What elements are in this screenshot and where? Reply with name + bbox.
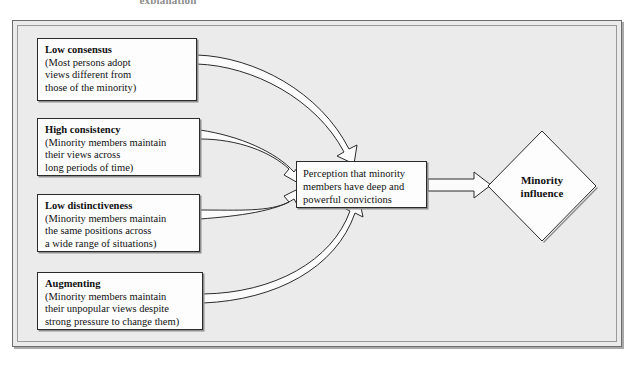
box-low-distinctiveness-line-3: a wide range of situations) [45, 238, 193, 251]
box-perception: Perception that minority members have de… [296, 161, 427, 208]
box-low-consensus-line-3: those of the minority) [45, 82, 190, 95]
box-low-consensus-title: Low consensus [45, 44, 190, 57]
box-low-distinctiveness-title: Low distinctiveness [45, 200, 193, 213]
box-high-consistency-title: High consistency [45, 124, 193, 137]
minority-influence-label-line-2: influence [500, 187, 584, 200]
box-augmenting-line-1: (Minority members maintain [45, 291, 196, 304]
box-low-consensus-line-2: views different from [45, 69, 190, 82]
box-augmenting-line-3: strong pressure to change them) [45, 316, 196, 329]
box-perception-line-1: Perception that minority [303, 167, 421, 180]
cut-off-caption: explanation [78, 0, 258, 4]
box-low-consensus-line-1: (Most persons adopt [45, 57, 190, 70]
box-augmenting-title: Augmenting [45, 278, 196, 291]
box-perception-line-2: members have deep and [303, 180, 421, 193]
figure-page: explanation .blockarrow { fill:#fbfbfb; … [0, 0, 643, 370]
minority-influence-label-line-1: Minority [500, 174, 584, 187]
box-low-distinctiveness-line-2: the same positions across [45, 225, 193, 238]
box-perception-line-3: powerful convictions [303, 193, 421, 206]
box-high-consistency-line-2: their views across [45, 149, 193, 162]
box-high-consistency-line-3: long periods of time) [45, 162, 193, 175]
minority-influence-label: Minority influence [500, 174, 584, 200]
box-high-consistency: High consistency (Minority members maint… [37, 118, 200, 176]
box-high-consistency-line-1: (Minority members maintain [45, 137, 193, 150]
box-low-distinctiveness-line-1: (Minority members maintain [45, 213, 193, 226]
box-augmenting: Augmenting (Minority members maintain th… [37, 272, 203, 330]
box-low-distinctiveness: Low distinctiveness (Minority members ma… [37, 194, 200, 252]
box-augmenting-line-2: their unpopular views despite [45, 303, 196, 316]
box-low-consensus: Low consensus (Most persons adopt views … [37, 38, 197, 101]
